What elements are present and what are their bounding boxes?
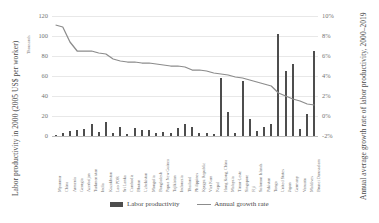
chart-figure: Labor productivity in 2000 (2005 US$ per… <box>0 0 379 223</box>
x-axis-category-label: Bhutan <box>136 180 141 192</box>
legend-item-annual-growth-rate: Annual growth rate <box>197 200 269 208</box>
y-axis-left-tick: 0 <box>26 132 48 139</box>
x-axis-category-label: Fiji <box>251 186 256 192</box>
x-axis-category-label: Viet Nam <box>208 176 213 192</box>
x-axis-line <box>52 136 318 137</box>
y-axis-left-tick: 40 <box>26 92 48 99</box>
legend-label-annual-growth-rate: Annual growth rate <box>214 200 268 208</box>
y-axis-left-tick: 80 <box>26 52 48 59</box>
y-axis-left-tick: 60 <box>26 72 48 79</box>
x-axis-category-label: China <box>64 182 69 192</box>
x-axis-category-label: Sri Lanka <box>122 175 127 192</box>
x-axis-category-label: Vanuatu <box>302 178 307 192</box>
x-axis-category-label: Solomon Islands <box>258 164 263 192</box>
y-axis-right-title: Annual average growth rate of labor prod… <box>360 15 369 200</box>
x-axis-category-label: Japan <box>287 182 292 192</box>
y-axis-right-tick: 4% <box>322 72 346 79</box>
x-axis-category-label: Papua New Guinea <box>165 159 170 192</box>
x-axis-category-label: Philippines <box>194 173 199 192</box>
x-axis-category-label: Mongolia <box>151 175 156 192</box>
x-axis-category-label: Singapore <box>244 175 249 192</box>
x-axis-category-label: Nepal <box>215 182 220 192</box>
x-axis-category-label: Azerbaijan <box>86 173 91 192</box>
x-axis-category-label: India <box>100 183 105 192</box>
y-axis-right-tick: 2% <box>322 92 346 99</box>
x-axis-category-label: Timor-Leste <box>237 171 242 192</box>
x-axis-category-label: Kazakhstan <box>108 172 113 192</box>
x-axis-category-label: Kyrgyz Republic <box>201 163 206 192</box>
x-axis-category-label: Pakistan <box>266 178 271 192</box>
x-axis-category-label: Thailand <box>187 177 192 192</box>
x-axis-category-label: Cambodia <box>129 175 134 192</box>
x-axis-category-label: Hong Kong, China <box>223 160 228 192</box>
line-series <box>52 16 318 136</box>
x-axis-category-label: Maldives <box>309 176 314 192</box>
x-axis-category-label: Georgia <box>79 178 84 192</box>
x-axis-category-label: Brunei Darussalam <box>316 159 321 192</box>
y-axis-right-tick: 10% <box>322 12 346 19</box>
x-axis-category-label: Lao PDR <box>115 176 120 192</box>
x-axis-category-label: Uzbekistan <box>143 173 148 192</box>
y-axis-left-tick: 120 <box>26 12 48 19</box>
x-axis-category-label: Turkmenistan <box>93 169 98 192</box>
legend-item-labor-productivity: Labor productivity <box>110 200 179 208</box>
x-axis-category-label: Armenia <box>72 177 77 192</box>
y-axis-left-title: Labor productivity in 2000 (2005 US$ per… <box>11 41 20 196</box>
y-axis-right-tick: 8% <box>322 32 346 39</box>
x-axis-category-labels: MyanmarChinaArmeniaGeorgiaAzerbaijanTurk… <box>52 138 318 194</box>
x-axis-category-label: Myanmar <box>57 175 62 192</box>
x-axis-category-label: Tajikistan <box>172 175 177 192</box>
legend-label-labor-productivity: Labor productivity <box>127 200 180 208</box>
chart-legend: Labor productivity Annual growth rate <box>0 200 379 208</box>
y-axis-left-tick: 20 <box>26 112 48 119</box>
y-axis-left-tick: 100 <box>26 32 48 39</box>
x-axis-category-label: Tonga <box>273 181 278 192</box>
legend-line-swatch-icon <box>197 204 211 205</box>
x-axis-category-label: Malaysia <box>230 176 235 192</box>
legend-bar-swatch-icon <box>110 202 123 207</box>
x-axis-category-label: United States <box>280 169 285 192</box>
y-axis-right-tick: 0% <box>322 112 346 119</box>
x-axis-category-label: Indonesia <box>179 175 184 192</box>
x-axis-category-label: Bangladesh <box>158 172 163 192</box>
x-axis-category-label: Germany <box>294 176 299 192</box>
y-axis-right-tick: 6% <box>322 52 346 59</box>
y-axis-right-tick: -2% <box>322 132 346 139</box>
